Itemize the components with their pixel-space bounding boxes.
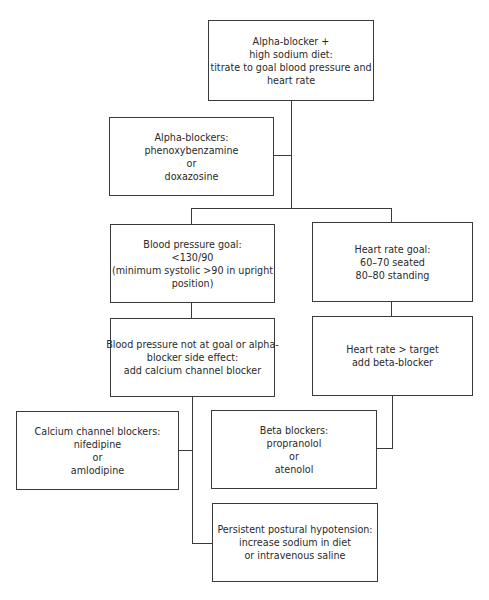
connector-bp-trunk <box>192 396 193 544</box>
node-text: amlodipine <box>71 464 124 477</box>
connector-hr-goal-to-above-target <box>391 301 392 316</box>
node-alpha-blockers: Alpha-blockers: phenoxybenzamine or doxa… <box>109 117 274 196</box>
node-beta-blockers: Beta blockers: propranolol or atenolol <box>211 410 377 489</box>
node-text: titrate to goal blood pressure and <box>210 61 371 74</box>
node-text: or <box>289 450 299 463</box>
node-text: or <box>187 157 197 170</box>
node-text: 60–70 seated <box>360 256 425 269</box>
node-postural-hypotension: Persistent postural hypotension: increas… <box>212 503 378 582</box>
node-text: Calcium channel blockers: <box>35 425 161 438</box>
node-text: Beta blockers: <box>260 424 328 437</box>
node-text: doxazosine <box>165 170 219 183</box>
node-text: propranolol <box>267 437 322 450</box>
node-text: or <box>93 451 103 464</box>
node-text: blocker side effect: <box>147 351 238 364</box>
node-start: Alpha-blocker + high sodium diet: titrat… <box>208 20 374 101</box>
node-text: 80–80 standing <box>356 269 430 282</box>
connector-to-alpha-blockers <box>273 155 292 156</box>
node-text: Heart rate > target <box>346 343 439 356</box>
node-text: phenoxybenzamine <box>144 144 238 157</box>
node-text: add calcium channel blocker <box>124 364 261 377</box>
node-text: Alpha-blockers: <box>155 131 229 144</box>
node-text: heart rate <box>267 74 315 87</box>
connector-goal-branch <box>191 208 392 209</box>
connector-to-postural <box>192 543 213 544</box>
node-calcium-channel-blockers: Calcium channel blockers: nifedipine or … <box>16 411 179 490</box>
node-hr-above-target: Heart rate > target add beta-blocker <box>312 316 473 396</box>
node-text: high sodium diet: <box>249 48 333 61</box>
node-text: or intravenous saline <box>244 549 345 562</box>
node-text: increase sodium in diet <box>239 536 351 549</box>
node-hr-goal: Heart rate goal: 60–70 seated 80–80 stan… <box>312 222 473 302</box>
node-text: add beta-blocker <box>352 356 433 369</box>
connector-to-beta-blockers <box>376 448 393 449</box>
node-text: atenolol <box>275 463 314 476</box>
node-text: <130/90 <box>172 251 214 264</box>
node-text: Blood pressure not at goal or alpha- <box>106 338 279 351</box>
node-bp-not-at-goal: Blood pressure not at goal or alpha- blo… <box>110 318 275 397</box>
connector-hr-trunk <box>392 395 393 449</box>
node-bp-goal: Blood pressure goal: <130/90 (minimum sy… <box>110 224 275 303</box>
node-text: Heart rate goal: <box>354 243 430 256</box>
node-text: (minimum systolic >90 in upright <box>112 264 273 277</box>
node-text: nifedipine <box>74 438 122 451</box>
node-text: Persistent postural hypotension: <box>217 523 372 536</box>
connector-bp-goal-to-not-at-goal <box>191 302 192 318</box>
connector-to-bp-goal <box>191 208 192 224</box>
node-text: Blood pressure goal: <box>143 238 241 251</box>
node-text: position) <box>172 277 214 290</box>
connector-to-ccb <box>178 450 193 451</box>
node-text: Alpha-blocker + <box>253 35 330 48</box>
connector-to-hr-goal <box>391 208 392 222</box>
